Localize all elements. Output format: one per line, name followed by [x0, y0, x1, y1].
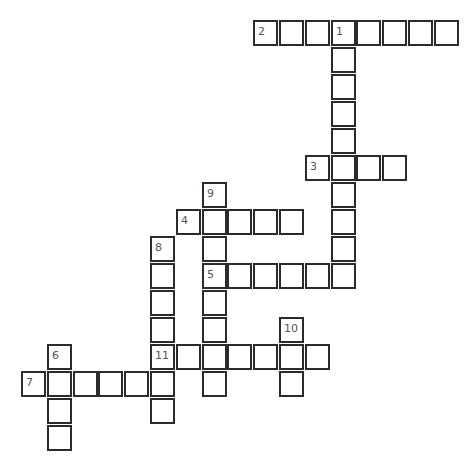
- clue-number: 6: [52, 350, 59, 361]
- clue-number: 5: [207, 269, 214, 280]
- clue-number: 11: [155, 350, 169, 361]
- clue-number: 4: [181, 215, 188, 226]
- crossword-cell[interactable]: [227, 209, 252, 235]
- clue-number: 10: [284, 323, 298, 334]
- clue-number: 1: [336, 26, 343, 37]
- clue-number: 9: [207, 188, 214, 199]
- crossword-cell[interactable]: 5: [202, 263, 227, 289]
- crossword-cell[interactable]: 8: [150, 236, 175, 262]
- crossword-cell[interactable]: [47, 425, 72, 451]
- crossword-cell[interactable]: [331, 236, 356, 262]
- clue-number: 3: [310, 161, 317, 172]
- crossword-cell[interactable]: [150, 317, 175, 343]
- crossword-cell[interactable]: 7: [21, 371, 46, 397]
- crossword-cell[interactable]: [331, 182, 356, 208]
- crossword-cell[interactable]: [202, 290, 227, 316]
- crossword-cell[interactable]: [253, 263, 278, 289]
- crossword-cell[interactable]: [331, 74, 356, 100]
- crossword-cell[interactable]: [382, 155, 407, 181]
- crossword-cell[interactable]: [202, 236, 227, 262]
- crossword-cell[interactable]: [150, 371, 175, 397]
- crossword-cell[interactable]: [98, 371, 123, 397]
- crossword-cell[interactable]: 1: [331, 20, 356, 46]
- crossword-cell[interactable]: [331, 263, 356, 289]
- crossword-cell[interactable]: 9: [202, 182, 227, 208]
- crossword-cell[interactable]: [73, 371, 98, 397]
- crossword-cell[interactable]: [305, 344, 330, 370]
- crossword-cell[interactable]: [305, 20, 330, 46]
- crossword-cell[interactable]: [279, 20, 304, 46]
- clue-number: 2: [258, 26, 265, 37]
- crossword-cell[interactable]: [176, 344, 201, 370]
- crossword-cell[interactable]: [47, 371, 72, 397]
- crossword-cell[interactable]: [331, 47, 356, 73]
- crossword-cell[interactable]: [279, 344, 304, 370]
- crossword-cell[interactable]: [408, 20, 433, 46]
- crossword-cell[interactable]: [331, 128, 356, 154]
- crossword-cell[interactable]: 3: [305, 155, 330, 181]
- crossword-cell[interactable]: [150, 290, 175, 316]
- crossword-cell[interactable]: 2: [253, 20, 278, 46]
- crossword-cell[interactable]: [434, 20, 459, 46]
- crossword-cell[interactable]: [356, 20, 381, 46]
- crossword-cell[interactable]: [150, 398, 175, 424]
- crossword-cell[interactable]: 6: [47, 344, 72, 370]
- crossword-cell[interactable]: 4: [176, 209, 201, 235]
- crossword-cell[interactable]: [331, 155, 356, 181]
- crossword-cell[interactable]: [227, 263, 252, 289]
- crossword-cell[interactable]: [253, 209, 278, 235]
- crossword-cell[interactable]: [150, 263, 175, 289]
- crossword-cell[interactable]: 11: [150, 344, 175, 370]
- crossword-cell[interactable]: [279, 209, 304, 235]
- clue-number: 8: [155, 242, 162, 253]
- crossword-cell[interactable]: 10: [279, 317, 304, 343]
- crossword-cell[interactable]: [331, 209, 356, 235]
- crossword-cell[interactable]: [331, 101, 356, 127]
- crossword-cell[interactable]: [202, 344, 227, 370]
- crossword-cell[interactable]: [279, 371, 304, 397]
- crossword-cell[interactable]: [202, 317, 227, 343]
- crossword-cell[interactable]: [202, 209, 227, 235]
- crossword-cell[interactable]: [124, 371, 149, 397]
- crossword-cell[interactable]: [47, 398, 72, 424]
- crossword-cell[interactable]: [202, 371, 227, 397]
- crossword-cell[interactable]: [279, 263, 304, 289]
- crossword-grid: 1234567811910: [0, 0, 472, 469]
- crossword-cell[interactable]: [253, 344, 278, 370]
- crossword-cell[interactable]: [356, 155, 381, 181]
- crossword-cell[interactable]: [227, 344, 252, 370]
- clue-number: 7: [26, 377, 33, 388]
- crossword-cell[interactable]: [382, 20, 407, 46]
- crossword-cell[interactable]: [305, 263, 330, 289]
